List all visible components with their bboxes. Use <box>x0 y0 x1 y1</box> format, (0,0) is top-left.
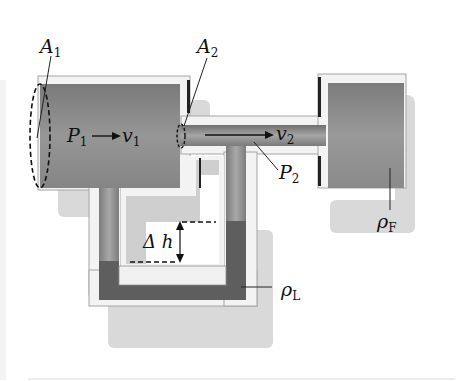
label-p2: P2 <box>279 163 299 185</box>
u-inner-edge <box>119 266 226 285</box>
diagram-canvas <box>0 0 468 381</box>
label-rho-l: ρL <box>281 280 300 302</box>
label-a2: A2 <box>197 37 218 59</box>
outlet-chamber-fluid <box>328 83 404 188</box>
label-v1: v1 <box>122 126 140 148</box>
label-p1: P1 <box>67 126 87 148</box>
venturi-diagram: A1 A2 P1 v1 v2 P2 Δ h ρF ρL <box>0 0 468 381</box>
label-rho-f: ρF <box>377 212 397 234</box>
left-edge-strip <box>0 80 6 380</box>
label-delta-h: Δ h <box>143 233 173 251</box>
label-v2: v2 <box>276 124 294 146</box>
left-leg-fluid <box>99 188 119 261</box>
label-a1: A1 <box>40 37 61 59</box>
right-leg-fluid <box>226 146 246 221</box>
